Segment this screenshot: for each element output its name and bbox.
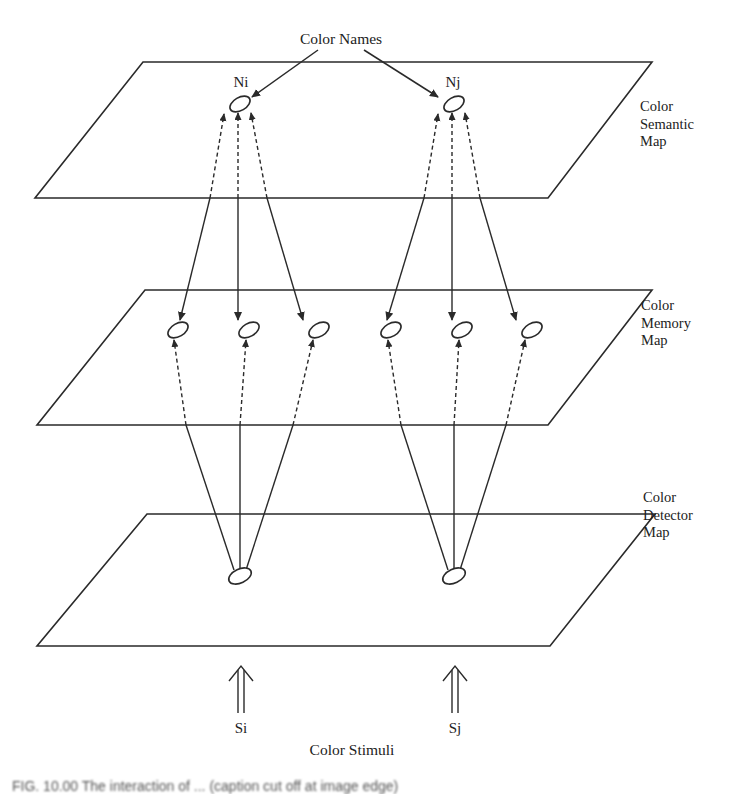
memory-node-1 <box>165 319 191 341</box>
stimulus-sj-double-arrow <box>443 666 467 713</box>
memory-node-4 <box>378 319 404 341</box>
nj-to-memory-3-arrow <box>480 198 516 320</box>
memory-node-2 <box>236 319 262 341</box>
color-stimuli-label: Color Stimuli <box>310 741 395 758</box>
memory-node-3 <box>306 319 332 341</box>
detector-i-line-1 <box>186 425 234 570</box>
detector-j-line-1 <box>401 425 448 570</box>
memory-to-ni-dashed-1 <box>210 114 224 198</box>
detector-j-dashed-2 <box>454 340 459 425</box>
detector-map-plane <box>37 514 655 646</box>
figure-caption: FIG. 10.00 The interaction of ... (capti… <box>12 778 398 794</box>
detector-j-dashed-1 <box>388 340 401 425</box>
ni-to-memory-3-arrow <box>267 198 303 320</box>
nj-to-memory-1-arrow <box>387 198 424 320</box>
memory-to-nj-dashed-1 <box>424 114 438 198</box>
nj-label: Nj <box>446 74 461 91</box>
ni-node <box>227 93 253 115</box>
color-names-label: Color Names <box>300 30 382 47</box>
stimulus-si-double-arrow <box>229 666 253 713</box>
nj-node <box>441 93 467 115</box>
memory-node-6 <box>519 319 545 341</box>
detector-map-label: Color Detector Map <box>643 489 693 542</box>
ni-to-memory-1-arrow <box>180 198 210 320</box>
detector-node-i <box>226 565 254 588</box>
detector-j-dashed-3 <box>506 340 525 425</box>
memory-map-plane <box>37 290 652 425</box>
detector-i-line-3 <box>246 425 293 570</box>
detector-node-j <box>440 565 468 588</box>
semantic-map-label: Color Semantic Map <box>640 98 694 151</box>
ni-label: Ni <box>234 74 249 91</box>
si-label: Si <box>235 720 248 737</box>
detector-i-dashed-2 <box>240 340 246 425</box>
detector-i-dashed-3 <box>293 340 313 425</box>
memory-to-nj-dashed-3 <box>465 113 480 198</box>
names-to-nj-arrow <box>364 50 438 97</box>
memory-to-ni-dashed-3 <box>251 113 267 198</box>
semantic-map-plane <box>35 62 652 198</box>
memory-node-5 <box>449 319 475 341</box>
memory-map-label: Color Memory Map <box>641 297 691 350</box>
sj-label: Sj <box>449 720 462 737</box>
detector-i-dashed-1 <box>174 340 186 425</box>
names-to-ni-arrow <box>252 50 318 97</box>
detector-j-line-3 <box>460 425 506 570</box>
